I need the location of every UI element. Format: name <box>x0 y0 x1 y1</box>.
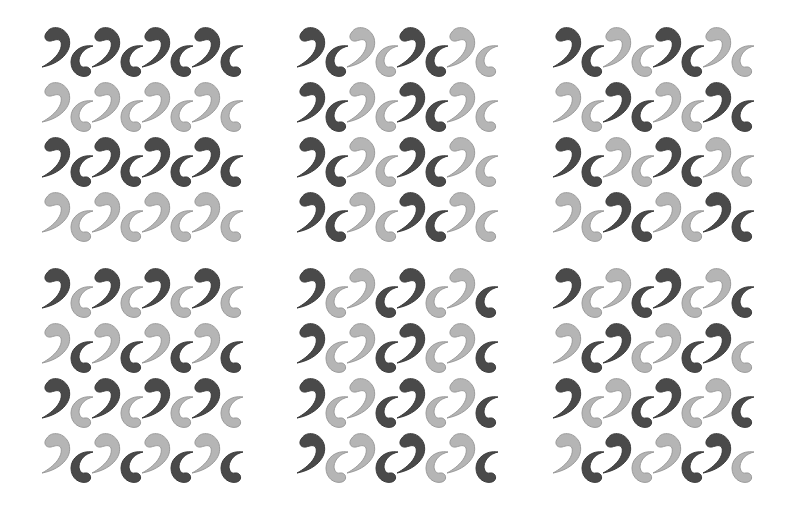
hook-pair-unit <box>553 434 604 483</box>
left-hook-icon <box>553 28 581 67</box>
left-hook-icon <box>397 193 425 232</box>
left-hook-icon <box>142 193 170 232</box>
left-hook-icon <box>142 28 170 67</box>
hook-pair-unit <box>653 379 704 428</box>
right-hook-icon <box>426 211 448 242</box>
right-hook-icon <box>71 211 93 242</box>
hook-pair-unit <box>142 379 193 428</box>
right-hook-icon <box>582 397 604 428</box>
left-hook-icon <box>42 28 70 67</box>
left-hook-icon <box>297 138 325 177</box>
left-hook-icon <box>553 138 581 177</box>
hook-pair-unit <box>297 324 348 373</box>
right-hook-icon <box>732 46 754 77</box>
right-hook-icon <box>732 101 754 132</box>
right-hook-icon <box>376 101 398 132</box>
right-hook-icon <box>326 342 348 373</box>
hook-pair-unit <box>447 193 498 242</box>
left-hook-icon <box>603 434 631 473</box>
left-hook-icon <box>653 83 681 122</box>
left-hook-icon <box>192 324 220 363</box>
right-hook-icon <box>376 452 398 483</box>
left-hook-icon <box>653 193 681 232</box>
left-hook-icon <box>397 324 425 363</box>
hook-pair-unit <box>447 324 498 373</box>
right-hook-icon <box>376 211 398 242</box>
left-hook-icon <box>42 434 70 473</box>
hook-pair-unit <box>447 138 498 187</box>
right-hook-icon <box>682 46 704 77</box>
left-hook-icon <box>553 379 581 418</box>
left-hook-icon <box>297 193 325 232</box>
hook-pair-unit <box>553 379 604 428</box>
left-hook-icon <box>347 379 375 418</box>
left-hook-icon <box>447 193 475 232</box>
left-hook-icon <box>142 269 170 308</box>
hook-pair-unit <box>653 83 704 132</box>
left-hook-icon <box>297 324 325 363</box>
hook-pair-unit <box>703 269 754 318</box>
right-hook-icon <box>732 397 754 428</box>
left-hook-icon <box>553 324 581 363</box>
hook-pair-unit <box>703 324 754 373</box>
left-hook-icon <box>603 83 631 122</box>
right-hook-icon <box>376 287 398 318</box>
right-hook-icon <box>732 287 754 318</box>
right-hook-icon <box>221 156 243 187</box>
left-hook-icon <box>192 193 220 232</box>
right-hook-icon <box>171 342 193 373</box>
right-hook-icon <box>582 46 604 77</box>
left-hook-icon <box>42 324 70 363</box>
left-hook-icon <box>553 269 581 308</box>
hook-pair-unit <box>703 83 754 132</box>
left-hook-icon <box>447 379 475 418</box>
hook-pair-unit <box>397 434 448 483</box>
hook-pair-unit <box>347 193 398 242</box>
left-hook-icon <box>603 379 631 418</box>
right-hook-icon <box>71 452 93 483</box>
hook-pair-unit <box>92 193 143 242</box>
right-hook-icon <box>682 287 704 318</box>
right-hook-icon <box>171 397 193 428</box>
right-hook-icon <box>221 46 243 77</box>
right-hook-icon <box>171 287 193 318</box>
hook-pair-unit <box>347 269 398 318</box>
hook-pair-unit <box>42 83 93 132</box>
right-hook-icon <box>376 46 398 77</box>
hook-pair-unit <box>42 434 93 483</box>
left-hook-icon <box>703 83 731 122</box>
left-hook-icon <box>297 434 325 473</box>
right-hook-icon <box>171 156 193 187</box>
hook-pair-unit <box>553 28 604 77</box>
right-hook-icon <box>71 156 93 187</box>
right-hook-icon <box>121 452 143 483</box>
hook-pair-unit <box>703 28 754 77</box>
right-hook-icon <box>582 287 604 318</box>
hook-pair-unit <box>447 28 498 77</box>
hook-pair-unit <box>703 193 754 242</box>
left-hook-icon <box>653 138 681 177</box>
right-hook-icon <box>121 287 143 318</box>
hook-pair-unit <box>42 28 93 77</box>
hook-pair-unit <box>192 138 243 187</box>
left-hook-icon <box>703 269 731 308</box>
hook-pair-unit <box>42 269 93 318</box>
hook-pair-unit <box>397 28 448 77</box>
right-hook-icon <box>171 452 193 483</box>
left-hook-icon <box>703 28 731 67</box>
hook-pair-unit <box>703 379 754 428</box>
right-hook-icon <box>171 46 193 77</box>
left-hook-icon <box>397 83 425 122</box>
left-hook-icon <box>603 193 631 232</box>
hook-pair-unit <box>297 193 348 242</box>
right-hook-icon <box>121 211 143 242</box>
right-hook-icon <box>476 342 498 373</box>
hook-pair-unit <box>192 324 243 373</box>
hook-pair-unit <box>192 379 243 428</box>
right-hook-icon <box>632 156 654 187</box>
hook-pair-unit <box>92 138 143 187</box>
hook-pair-unit <box>42 324 93 373</box>
right-hook-icon <box>682 101 704 132</box>
left-hook-icon <box>92 434 120 473</box>
hook-pair-unit <box>447 269 498 318</box>
